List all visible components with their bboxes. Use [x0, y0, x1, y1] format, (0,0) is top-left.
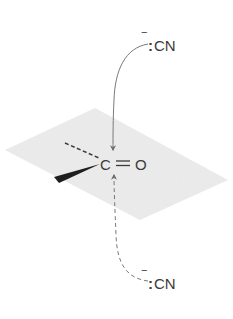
oxygen-atom: O — [135, 156, 147, 173]
lone-pair: : — [148, 37, 153, 54]
mechanism-diagram: C O − : CN − : CN — [0, 0, 233, 319]
lone-pair: : — [148, 275, 153, 292]
cyanide-bottom: − : CN — [141, 264, 176, 292]
cyanide-top: − : CN — [141, 26, 176, 54]
negative-charge: − — [141, 264, 147, 276]
cyanide-label: CN — [154, 275, 176, 292]
negative-charge: − — [141, 26, 147, 38]
carbon-atom: C — [100, 156, 111, 173]
trigonal-plane — [5, 108, 228, 220]
cyanide-label: CN — [154, 37, 176, 54]
